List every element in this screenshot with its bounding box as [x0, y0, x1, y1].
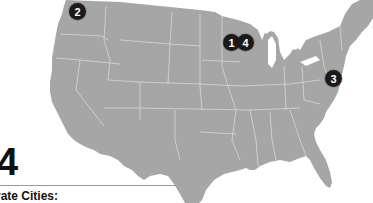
lake-superior — [262, 18, 300, 34]
divider — [0, 185, 176, 186]
marker-label: 4 — [242, 37, 248, 49]
marker-label: 1 — [228, 37, 234, 49]
marker-label: 3 — [330, 73, 336, 85]
us-map — [0, 0, 373, 203]
legend-big-number: 4 — [0, 143, 17, 181]
city-marker-4[interactable]: 4 — [237, 34, 254, 51]
marker-label: 2 — [74, 6, 80, 18]
city-marker-3[interactable]: 3 — [325, 70, 342, 87]
legend-subtitle: rate Cities: — [0, 189, 58, 203]
city-marker-2[interactable]: 2 — [69, 3, 86, 20]
us-land — [50, 0, 373, 203]
